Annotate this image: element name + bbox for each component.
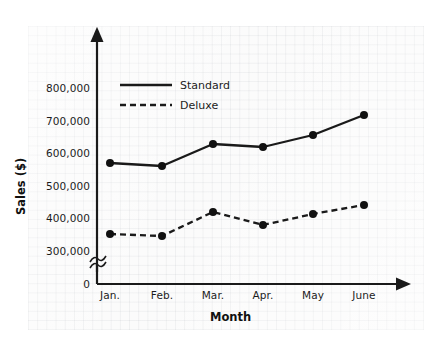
y-axis-title: Sales ($) [14,158,28,215]
data-point-deluxe [309,210,317,218]
x-tick-label-jan: Jan. [85,289,135,301]
x-tick-label-apr: Apr. [238,289,288,301]
data-point-standard [309,131,317,139]
series-deluxe-line [110,205,364,236]
legend-label-deluxe: Deluxe [180,99,218,112]
data-point-deluxe [158,232,166,240]
data-point-deluxe [259,221,267,229]
data-point-standard [259,143,267,151]
x-tick-label-mar: Mar. [188,289,238,301]
data-point-standard [106,159,114,167]
data-point-deluxe [209,208,217,216]
x-tick-label-may: May [288,289,338,301]
data-point-standard [360,111,368,119]
data-point-standard [209,140,217,148]
x-axis-title: Month [210,310,251,324]
y-tick-label-700000: 700,000 [12,115,90,127]
x-tick-label-feb: Feb. [137,289,187,301]
series-standard-line [110,115,364,166]
data-point-deluxe [106,230,114,238]
chart-figure: 800,000 700,000 600,000 500,000 400,000 … [0,0,448,352]
x-tick-label-june: June [339,289,389,301]
data-point-deluxe [360,201,368,209]
legend-label-standard: Standard [180,79,230,92]
data-point-standard [158,162,166,170]
y-tick-label-zero: 0 [12,278,90,290]
y-tick-label-800000: 800,000 [12,82,90,94]
y-tick-label-300000: 300,000 [12,245,90,257]
